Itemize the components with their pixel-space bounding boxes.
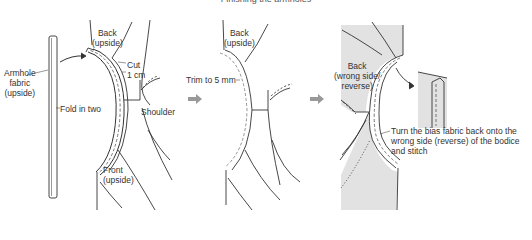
label-back-3: Back (wrong side/ reverse) xyxy=(334,61,380,91)
label-text: Back xyxy=(92,28,123,38)
step-arrows xyxy=(188,94,324,104)
label-shoulder: Shoulder xyxy=(141,107,175,117)
label-text: Armhole xyxy=(4,68,36,78)
label-text: (wrong side/ xyxy=(334,71,380,81)
label-trim: Trim to 5 mm xyxy=(186,75,236,85)
label-text: Back xyxy=(224,28,255,38)
label-back-2: Back (upside) xyxy=(224,28,255,48)
label-text: 1 cm xyxy=(127,70,145,80)
label-text: (upside) xyxy=(103,175,134,185)
bias-strip xyxy=(49,36,57,198)
label-text: (upside) xyxy=(224,38,255,48)
label-text: and stitch xyxy=(391,146,520,156)
arrow-step2-to-step3 xyxy=(310,94,324,104)
label-text: fabric xyxy=(4,78,36,88)
label-text: reverse) xyxy=(334,81,380,91)
label-text: Front xyxy=(103,165,134,175)
panel-step3 xyxy=(340,22,447,210)
label-instruction: Turn the bias fabric back onto the wrong… xyxy=(391,126,520,156)
label-text: wrong side (reverse) of the bodice xyxy=(391,136,520,146)
label-text: Turn the bias fabric back onto the xyxy=(391,126,520,136)
label-text: (upside) xyxy=(92,38,123,48)
label-text: (upside) xyxy=(4,88,36,98)
label-fold: Fold in two xyxy=(60,104,101,114)
label-text: Cut xyxy=(127,60,145,70)
label-back-1: Back (upside) xyxy=(92,28,123,48)
label-text: Back xyxy=(334,61,380,71)
label-armhole-fabric: Armhole fabric (upside) xyxy=(4,68,36,98)
panel-step2 xyxy=(220,20,300,210)
arrow-step1-to-step2 xyxy=(188,94,202,104)
label-front: Front (upside) xyxy=(103,165,134,185)
label-cut: Cut 1 cm xyxy=(127,60,145,80)
